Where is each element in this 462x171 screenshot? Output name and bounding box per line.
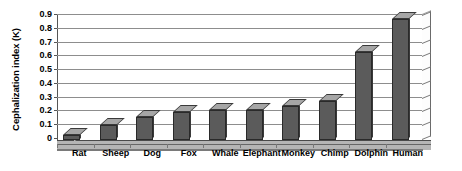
y-axis-tick-label: 0.4 — [39, 79, 52, 88]
plot-right-wall — [422, 10, 431, 140]
right-wall-gridline — [422, 122, 431, 127]
bar-top-face — [100, 118, 125, 125]
bar-top-face — [173, 105, 198, 112]
y-axis-tick-label: 0.3 — [39, 93, 52, 102]
bar-slot — [130, 14, 167, 140]
right-wall-gridline — [422, 66, 431, 71]
bar-slot — [94, 14, 131, 140]
cephalization-index-bar-chart: Cephalization index (K) 00.10.20.30.40.5… — [0, 0, 462, 171]
bar — [282, 106, 299, 140]
y-axis-tick-label: 0.2 — [39, 106, 52, 115]
x-axis-category-labels: RatSheepDogFoxWhaleElephantMonkeyChimpDo… — [57, 148, 431, 168]
plot-area — [57, 14, 431, 142]
bar — [355, 52, 372, 140]
bar-slot — [276, 14, 313, 140]
y-axis-tick-label: 0.8 — [39, 24, 52, 33]
bar-slot — [167, 14, 204, 140]
bar-slot — [203, 14, 240, 140]
right-wall-gridline — [422, 53, 431, 58]
bar — [319, 101, 336, 140]
bar-top-face — [355, 45, 380, 52]
x-axis-tick-mark — [167, 144, 168, 148]
y-axis-tick-label: 0.6 — [39, 51, 52, 60]
right-wall-gridline — [422, 108, 431, 113]
bar-series — [57, 14, 422, 140]
bar-top-face — [246, 103, 271, 110]
right-wall-gridline — [422, 39, 431, 44]
x-axis-tick-mark — [276, 144, 277, 148]
x-axis-category-label: Human — [385, 148, 431, 158]
x-axis-tick-mark — [240, 144, 241, 148]
x-axis-tick-mark — [349, 144, 350, 148]
bar — [246, 110, 263, 140]
right-wall-gridline — [422, 80, 431, 85]
x-axis-tick-mark — [130, 144, 131, 148]
x-axis-tick-mark — [313, 144, 314, 148]
y-axis-title: Cephalization index (K) — [10, 10, 21, 150]
bar-top-face — [209, 103, 234, 110]
bar — [392, 19, 409, 140]
bar-top-face — [392, 12, 417, 19]
right-wall-gridline — [422, 94, 431, 99]
bar-slot — [240, 14, 277, 140]
bar-top-face — [282, 99, 307, 106]
bar-top-face — [319, 94, 344, 101]
right-wall-gridline — [422, 11, 431, 16]
x-axis-tick-mark — [203, 144, 204, 148]
bar — [209, 110, 226, 140]
y-axis-tick-label: 0.1 — [39, 120, 52, 129]
x-axis-tick-mark — [94, 144, 95, 148]
bar-slot — [349, 14, 386, 140]
y-axis-tick-label: 0.9 — [39, 10, 52, 19]
bar-slot — [386, 14, 423, 140]
y-axis-tick-label: 0.5 — [39, 65, 52, 74]
bar — [173, 112, 190, 140]
y-axis-tick-label: 0.7 — [39, 38, 52, 47]
right-wall-gridline — [422, 25, 431, 30]
x-axis-tick-mark — [386, 144, 387, 148]
bar-slot — [313, 14, 350, 140]
bar — [100, 125, 117, 140]
y-axis-tick-label: 0 — [47, 134, 52, 143]
y-axis-tick-labels: 00.10.20.30.40.50.60.70.80.9 — [22, 0, 52, 171]
bar — [63, 135, 80, 141]
bar — [136, 117, 153, 140]
bar-slot — [57, 14, 94, 140]
bar-top-face — [136, 110, 161, 117]
x-axis-line — [57, 144, 431, 145]
bar-top-face — [63, 128, 88, 135]
x-axis-tick-mark — [57, 144, 58, 148]
